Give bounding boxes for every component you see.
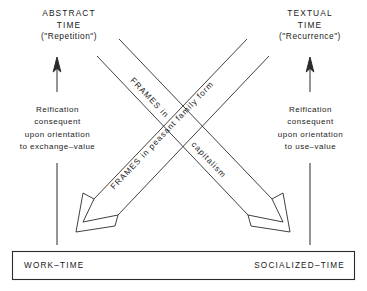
reification-right-line2: consequent — [254, 116, 367, 128]
pole-label-left: ABSTRACT TIME ("Repetition") — [14, 8, 124, 43]
descending-arrow-edge-b — [119, 39, 272, 199]
bottom-box-label-work-time: WORK–TIME — [24, 261, 84, 270]
pole-right-line2: TIME — [255, 20, 365, 32]
descending-arrowhead — [248, 193, 290, 232]
pole-label-right: TEXTUAL TIME ("Recurrence") — [255, 8, 365, 43]
reification-right-line4: to use–value — [254, 141, 367, 153]
reification-note-right: Reification consequent upon orientation … — [254, 104, 367, 154]
pole-left-line3: ("Repetition") — [14, 31, 124, 43]
ascending-arrowhead — [76, 193, 118, 232]
reification-left-line3: upon orientation — [1, 129, 114, 141]
pole-right-line1: TEXTUAL — [255, 8, 365, 20]
reification-right-line1: Reification — [254, 104, 367, 116]
reification-left-line4: to exchange–value — [1, 141, 114, 153]
ascending-arrow-edge-a — [118, 56, 269, 215]
reification-left-line2: consequent — [1, 116, 114, 128]
descending-arrow-edge-a — [97, 56, 248, 215]
reification-right-line3: upon orientation — [254, 129, 367, 141]
pole-left-line2: TIME — [14, 20, 124, 32]
reification-note-left: Reification consequent upon orientation … — [1, 104, 114, 154]
bottom-box-label-socialized-time: SOCIALIZED–TIME — [254, 261, 345, 270]
pole-left-line1: ABSTRACT — [14, 8, 124, 20]
reification-left-line1: Reification — [1, 104, 114, 116]
pole-right-line3: ("Recurrence") — [255, 31, 365, 43]
diagram-figure: ABSTRACT TIME ("Repetition") TEXTUAL TIM… — [0, 0, 367, 291]
